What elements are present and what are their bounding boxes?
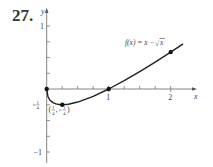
function-graph: y x 1 2 1 −1 1 4 ( 1 4 , 1 4 ) f(x) = x … <box>0 0 213 167</box>
point-at-x2 <box>169 50 173 54</box>
axes <box>47 10 195 163</box>
function-label: f(x) = x − √ x <box>125 38 165 48</box>
y-axis-arrow-icon <box>45 8 49 13</box>
origin-point <box>45 87 49 91</box>
svg-text:x: x <box>159 38 164 47</box>
svg-text:1: 1 <box>37 100 40 105</box>
minimum-point-label: ( 1 4 , 1 4 ) <box>49 105 71 116</box>
x-tick-label-1: 1 <box>106 93 110 102</box>
y-tick-label-1: 1 <box>40 22 44 31</box>
x-axis-arrow-icon <box>192 87 197 91</box>
svg-text:1: 1 <box>63 105 66 110</box>
y-axis-label: y <box>40 7 45 16</box>
svg-text:f(x) = x −: f(x) = x − <box>125 38 156 47</box>
root-point <box>107 87 111 91</box>
y-tick-label-neg1: −1 <box>34 148 43 157</box>
svg-text:,: , <box>56 105 58 114</box>
svg-text:4: 4 <box>63 111 66 116</box>
x-axis-label: x <box>193 92 198 101</box>
x-tick-label-2: 2 <box>168 93 172 102</box>
function-curve <box>47 44 183 105</box>
svg-text:4: 4 <box>37 105 40 110</box>
svg-text:): ) <box>67 105 70 114</box>
y-tick-label-neg-quarter: 1 4 <box>33 100 40 111</box>
